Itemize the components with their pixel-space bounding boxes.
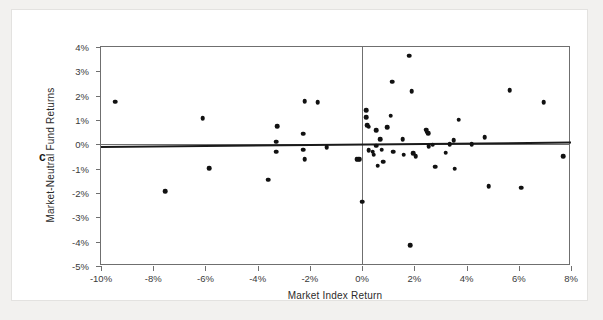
y-axis-title: Market-Neutral Fund Returns	[45, 88, 56, 223]
data-point	[519, 185, 524, 190]
data-point	[426, 131, 431, 136]
data-point	[378, 137, 383, 142]
x-tick	[101, 266, 102, 271]
data-point	[456, 117, 461, 122]
y-tick	[96, 120, 101, 121]
x-tick	[467, 266, 468, 271]
y-tick-label: 0%	[75, 139, 89, 150]
y-tick	[96, 217, 101, 218]
y-tick	[96, 47, 101, 48]
x-tick	[258, 266, 259, 271]
x-tick	[519, 266, 520, 271]
data-point	[315, 100, 320, 105]
y-tick-label: -3%	[72, 212, 89, 223]
data-point	[561, 154, 566, 159]
x-tick	[414, 266, 415, 271]
figure-page: c Market-Neutral Fund Returns Market Ind…	[0, 0, 603, 320]
y-tick	[96, 193, 101, 194]
data-point	[385, 125, 390, 130]
x-tick	[153, 266, 154, 271]
data-point	[451, 138, 456, 143]
data-point	[413, 154, 418, 159]
y-tick	[96, 169, 101, 170]
data-point	[302, 99, 307, 104]
x-tick	[571, 266, 572, 271]
data-point	[355, 157, 360, 162]
x-tick	[310, 266, 311, 271]
y-tick	[96, 96, 101, 97]
x-tick	[205, 266, 206, 271]
y-tick-label: -2%	[72, 188, 89, 199]
data-point	[163, 189, 168, 194]
data-point	[391, 149, 396, 154]
y-tick	[96, 71, 101, 72]
data-point	[266, 177, 271, 182]
data-point	[364, 108, 369, 113]
data-point	[402, 152, 407, 157]
data-point	[301, 132, 306, 137]
data-point	[374, 128, 379, 133]
y-tick	[96, 266, 101, 267]
y-tick-label: 4%	[75, 42, 89, 53]
x-tick-label: -2%	[301, 273, 318, 284]
data-point	[507, 88, 512, 93]
data-point	[274, 149, 279, 154]
data-point	[483, 135, 488, 140]
data-point	[364, 115, 369, 120]
data-point	[302, 157, 307, 162]
y-tick-label: 3%	[75, 66, 89, 77]
data-point	[381, 160, 386, 165]
data-point	[390, 79, 395, 84]
data-point	[372, 152, 377, 157]
data-point	[408, 243, 413, 248]
data-point	[443, 151, 448, 156]
data-point	[407, 53, 412, 58]
data-point	[453, 166, 458, 171]
data-point	[274, 140, 279, 145]
data-point	[541, 100, 546, 105]
scatter-series	[101, 47, 569, 264]
x-tick-label: 2%	[407, 273, 421, 284]
data-point	[486, 184, 491, 189]
data-point	[374, 143, 379, 148]
x-tick-label: 6%	[512, 273, 526, 284]
data-point	[375, 163, 380, 168]
x-tick	[362, 266, 363, 271]
x-axis-title: Market Index Return	[100, 290, 570, 301]
data-point	[447, 142, 452, 147]
data-point	[430, 143, 435, 148]
x-tick-label: -10%	[90, 273, 112, 284]
x-tick-label: -4%	[249, 273, 266, 284]
data-point	[400, 137, 405, 142]
y-tick	[96, 144, 101, 145]
data-point	[389, 113, 394, 118]
y-tick-label: -1%	[72, 163, 89, 174]
y-tick-label: -5%	[72, 261, 89, 272]
x-tick-label: 4%	[460, 273, 474, 284]
data-point	[469, 142, 474, 147]
plot-area: -10%-8%-6%-4%-2%0%2%4%6%8%4%3%2%1%0%-1%-…	[100, 46, 570, 265]
data-point	[409, 89, 414, 94]
data-point	[113, 99, 118, 104]
y-tick	[96, 242, 101, 243]
data-point	[366, 125, 371, 130]
x-tick-label: -6%	[197, 273, 214, 284]
y-tick-label: -4%	[72, 236, 89, 247]
x-tick-label: 0%	[355, 273, 369, 284]
data-point	[207, 166, 212, 171]
data-point	[360, 199, 365, 204]
data-point	[201, 116, 206, 121]
y-tick-label: 1%	[75, 115, 89, 126]
data-point	[379, 147, 384, 152]
x-tick-label: 8%	[564, 273, 578, 284]
y-tick-label: 2%	[75, 90, 89, 101]
data-point	[433, 164, 438, 169]
data-point	[275, 124, 280, 129]
x-tick-label: -8%	[145, 273, 162, 284]
data-point	[325, 145, 330, 150]
figure-card: c Market-Neutral Fund Returns Market Ind…	[11, 9, 588, 301]
data-point	[301, 147, 306, 152]
